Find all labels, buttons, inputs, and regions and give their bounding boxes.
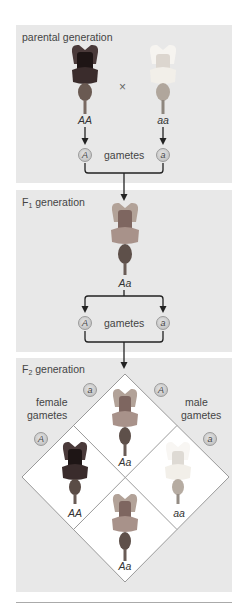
male-gametes-label-1: male <box>185 396 208 408</box>
female-gametes-label-2: gametes <box>27 409 67 421</box>
f2-cell-top-genotype: Aa <box>110 456 140 468</box>
bottom-rule <box>16 602 232 603</box>
cross-symbol: × <box>119 80 126 94</box>
male-gamete-A: A <box>154 383 168 397</box>
f2-cell-left-genotype: AA <box>60 507 90 519</box>
f1-gamete-a: a <box>156 316 170 330</box>
flower-f1-hybrid <box>111 203 139 275</box>
f2-cell-right-genotype: aa <box>164 507 194 519</box>
parent-gametes-label: gametes <box>104 149 144 161</box>
f1-gamete-A: A <box>78 316 92 330</box>
parent-right-genotype: aa <box>148 114 178 126</box>
parent-left-genotype: AA <box>70 114 100 126</box>
f2-cell-bottom-genotype: Aa <box>110 560 140 572</box>
parent-gamete-a: a <box>156 148 170 162</box>
female-gamete-a: a <box>83 383 97 397</box>
male-gametes-label-2: gametes <box>181 409 221 421</box>
f1-gametes-label: gametes <box>104 317 144 329</box>
flower-white-parent <box>150 45 176 114</box>
parent-gamete-A: A <box>78 148 92 162</box>
male-gamete-a: a <box>203 432 217 446</box>
female-gamete-A: A <box>34 432 48 446</box>
flower-dark-parent <box>72 45 98 114</box>
female-gametes-label-1: female <box>36 396 68 408</box>
f1-genotype: Aa <box>110 277 140 289</box>
